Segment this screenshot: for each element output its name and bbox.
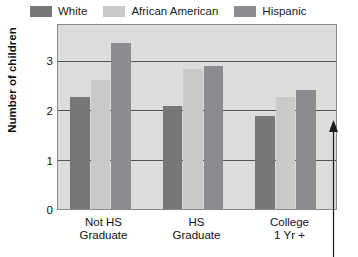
x-label-not-hs-graduate: Not HS Graduate — [57, 216, 150, 242]
plot-inner — [58, 25, 336, 209]
bar-hispanic-college-1-yr — [296, 90, 316, 209]
x-label-not-hs-graduate-line2: Graduate — [57, 229, 150, 242]
bar-white-college-1-yr — [255, 116, 275, 209]
bar-african-american-hs-graduate — [183, 69, 203, 209]
legend-entry-african-american: African American — [103, 5, 218, 17]
legend-label-hispanic: Hispanic — [262, 5, 306, 17]
chart-legend: White African American Hispanic — [30, 3, 322, 19]
legend-label-white: White — [58, 5, 87, 17]
x-axis-labels: Not HS Graduate HS Graduate College 1 Yr… — [57, 214, 337, 254]
y-tick-2: 2 — [35, 106, 53, 117]
x-label-hs-graduate-line1: HS — [150, 216, 243, 229]
x-label-hs-graduate-line2: Graduate — [150, 229, 243, 242]
bar-african-american-not-hs-graduate — [91, 80, 111, 209]
legend-entry-hispanic: Hispanic — [234, 5, 306, 17]
x-label-college-1yr: College 1 Yr + — [243, 216, 336, 242]
legend-entry-white: White — [30, 5, 87, 17]
x-label-college-1yr-line1: College — [243, 216, 336, 229]
gridline-y-3 — [58, 61, 336, 62]
legend-swatch-white — [30, 6, 52, 17]
x-label-hs-graduate: HS Graduate — [150, 216, 243, 242]
y-axis-title: Number of children — [6, 20, 18, 140]
bar-african-american-college-1-yr — [276, 97, 296, 209]
x-label-not-hs-graduate-line1: Not HS — [57, 216, 150, 229]
y-tick-1: 1 — [35, 156, 53, 167]
legend-swatch-african-american — [103, 6, 125, 17]
bar-hispanic-not-hs-graduate — [111, 43, 131, 209]
legend-label-african-american: African American — [131, 5, 218, 17]
y-axis-ticks: 3 2 1 0 — [33, 24, 53, 210]
y-tick-0: 0 — [35, 205, 53, 216]
bar-white-hs-graduate — [163, 106, 183, 209]
bar-chart-figure: White African American Hispanic Number o… — [0, 0, 358, 257]
legend-swatch-hispanic — [234, 6, 256, 17]
bar-white-not-hs-graduate — [70, 97, 90, 209]
x-label-college-1yr-line2: 1 Yr + — [243, 229, 336, 242]
bar-hispanic-hs-graduate — [204, 66, 224, 209]
plot-area — [57, 24, 337, 210]
y-tick-3: 3 — [35, 56, 53, 67]
